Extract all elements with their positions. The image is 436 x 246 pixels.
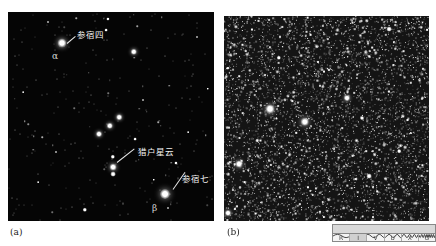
faint-star [144,190,145,191]
faint-star [192,111,193,112]
faint-star [16,107,17,108]
faint-star [116,103,117,104]
faint-star [59,220,60,221]
faint-star [114,184,115,185]
faint-star [94,103,95,104]
bright-star [387,27,392,32]
faint-star [14,98,16,100]
faint-star [142,85,144,87]
faint-star [64,73,65,74]
faint-star [173,133,174,134]
faint-star [181,98,182,99]
faint-star [65,165,66,166]
faint-star [72,206,73,207]
star [187,131,189,133]
faint-star [24,120,26,122]
spectrum-band-indicator: RIVUXG [332,224,436,242]
faint-star [61,22,62,23]
faint-star [210,179,211,180]
faint-star [210,176,211,177]
faint-star [16,208,17,209]
faint-star [202,101,203,102]
star [58,39,67,48]
faint-star [68,46,69,47]
star [107,123,113,129]
label-leader-line [67,36,76,44]
faint-star [150,30,151,31]
faint-star [182,35,183,36]
star [134,138,137,141]
faint-star [120,200,121,201]
faint-star [169,128,170,129]
faint-star [158,75,159,76]
faint-star [31,204,32,205]
faint-star [36,80,37,81]
faint-star [76,17,78,19]
star [207,88,209,90]
faint-star [13,78,14,79]
faint-star [160,125,162,127]
faint-star [171,220,172,221]
faint-star [129,17,130,18]
faint-star [75,142,76,143]
star [142,99,144,101]
faint-star [139,188,140,189]
faint-star [91,95,92,96]
faint-star [107,96,108,97]
faint-star [190,86,191,87]
faint-star [157,122,159,124]
faint-star [79,199,80,200]
faint-star [182,158,183,159]
faint-star [78,187,79,188]
faint-star [196,28,197,29]
faint-star [196,23,197,24]
faint-star [175,33,176,34]
faint-star [81,151,82,152]
faint-star [106,163,107,164]
faint-star [139,131,140,132]
spectrum-band-i: I [350,234,367,241]
faint-star [93,202,94,203]
faint-star [34,37,35,38]
faint-star [98,145,99,146]
faint-star [60,91,61,92]
faint-star [83,204,84,205]
faint-star [181,164,182,165]
faint-star [137,121,138,122]
spectrum-band-v: V [367,234,384,241]
faint-star [89,126,91,128]
label-leader-line [117,149,135,163]
faint-star [32,153,33,154]
star-label: 猎户星云 [138,145,174,157]
faint-star [65,150,66,151]
faint-star [146,202,147,203]
faint-star [83,157,84,158]
star-label: 参宿四 [77,28,104,40]
faint-star [96,183,97,184]
greek-designation: β [152,203,157,213]
star [160,189,170,199]
faint-star [171,202,172,203]
faint-star [170,204,172,206]
faint-star [18,54,19,55]
faint-star [205,135,207,137]
faint-star [178,166,179,167]
faint-star [74,108,76,110]
faint-star [193,73,194,74]
faint-star [59,26,60,27]
faint-star [150,199,151,200]
star [167,207,169,209]
faint-star [155,13,156,14]
faint-star [172,61,173,62]
greek-designation: α [52,51,58,61]
faint-star [68,162,69,163]
faint-star [54,44,55,45]
faint-star [127,138,128,139]
star [196,36,198,38]
faint-star [26,86,27,87]
faint-star [73,90,74,91]
faint-star [63,77,64,78]
faint-star [67,34,68,35]
faint-star [108,92,110,94]
faint-star [207,196,208,197]
